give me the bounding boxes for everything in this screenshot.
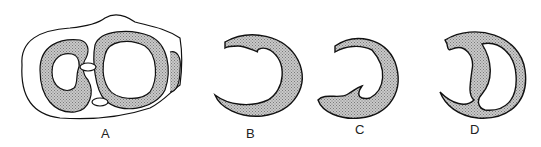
- panel-b-drawing: [215, 35, 302, 116]
- panel-d-drawing: [440, 32, 526, 118]
- panel-label-c: C: [355, 123, 364, 136]
- diagram-svg: [0, 0, 541, 147]
- panel-a-drawing: [22, 15, 182, 119]
- panel-label-b: B: [246, 127, 255, 140]
- panel-c-drawing: [318, 39, 398, 119]
- panel-label-d: D: [470, 123, 479, 136]
- diagram-figure: A B C D: [0, 0, 541, 147]
- panel-label-a: A: [101, 127, 110, 140]
